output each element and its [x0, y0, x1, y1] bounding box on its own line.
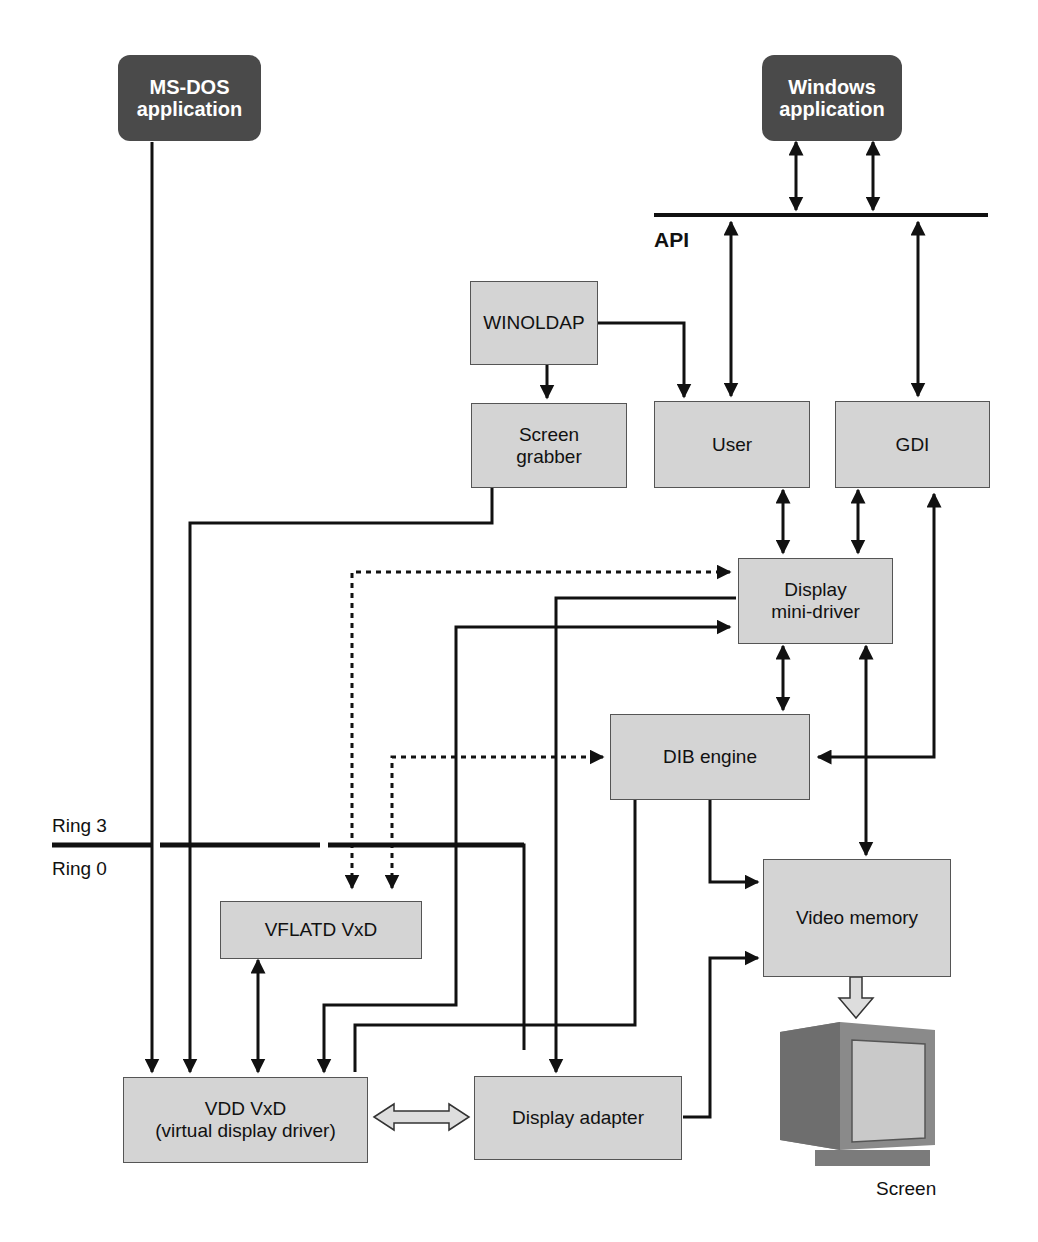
api-label: API: [654, 228, 689, 252]
screen-label: Screen: [876, 1178, 936, 1200]
screen-grabber-node: Screen grabber: [471, 403, 627, 488]
display-minidriver-node: Display mini-driver: [738, 558, 893, 644]
hollow-down-arrow: [839, 977, 873, 1018]
msdos-application-node: MS-DOS application: [118, 55, 261, 141]
user-node: User: [654, 401, 810, 488]
winoldap-node: WINOLDAP: [470, 281, 598, 365]
vflatd-node: VFLATD VxD: [220, 901, 422, 959]
monitor-icon: [780, 1022, 935, 1166]
vdd-node: VDD VxD (virtual display driver): [123, 1077, 368, 1163]
ring0-label: Ring 0: [52, 858, 107, 880]
hollow-double-arrow: [374, 1104, 469, 1130]
gdi-node: GDI: [835, 401, 990, 488]
video-memory-node: Video memory: [763, 859, 951, 977]
ring3-label: Ring 3: [52, 815, 107, 837]
windows-application-node: Windows application: [762, 55, 902, 141]
dib-engine-node: DIB engine: [610, 714, 810, 800]
display-adapter-node: Display adapter: [474, 1076, 682, 1160]
